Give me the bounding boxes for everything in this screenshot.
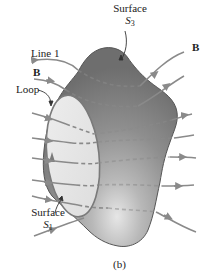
diagram-canvas (0, 0, 213, 280)
label-surface-s1: Surface S1 (26, 206, 70, 234)
label-line-1: Line 1 (31, 47, 59, 59)
label-b-field-left: B (33, 66, 40, 78)
label-surface-s3: Surface S3 (101, 2, 159, 30)
label-surface-s3-word: Surface (101, 2, 159, 14)
label-surface-s1-word: Surface (26, 206, 70, 218)
figure-caption: (b) (113, 258, 126, 270)
label-b-field-right: B (192, 41, 199, 53)
label-surface-s1-symbol: S1 (26, 218, 70, 234)
label-surface-s3-symbol: S3 (101, 14, 159, 30)
magnetic-flux-diagram: Surface S3 Line 1 B B Loop Surface S1 (b… (0, 0, 213, 280)
label-loop: Loop (16, 83, 39, 95)
